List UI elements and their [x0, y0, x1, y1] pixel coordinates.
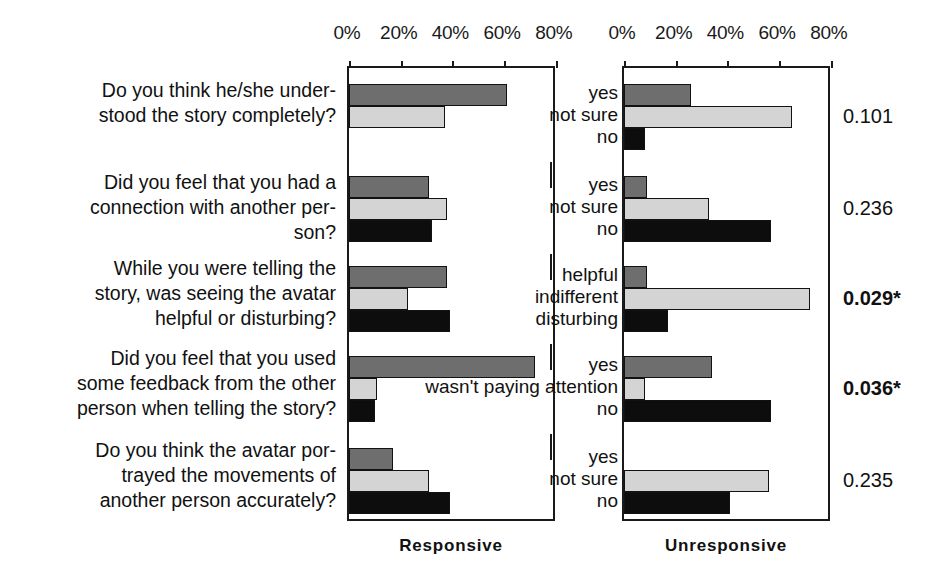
axis-tick-label: 40%: [707, 22, 744, 44]
p-value: 0.036*: [843, 377, 901, 400]
group-divider: [550, 254, 552, 280]
plot-unresponsive: [622, 66, 830, 521]
axis-tick-label: 0%: [609, 22, 636, 44]
p-value: 0.029*: [843, 287, 901, 310]
bar-helpful: [624, 266, 647, 288]
survey-bar-chart-figure: 0%20%40%60%80% 0%20%40%60%80% Do you thi…: [0, 0, 939, 581]
axis-labels-unresponsive: 0%20%40%60%80%: [622, 22, 830, 48]
category-label-column: yesnot surenoyesnot surenohelpfulindiffe…: [396, 66, 618, 521]
bar-not-sure: [624, 470, 769, 492]
bar-disturbing: [624, 310, 668, 332]
question-label: Did you feel that you had aconnection wi…: [6, 170, 336, 245]
category-label: yes: [588, 354, 618, 376]
axis-tick-label: 0%: [334, 22, 361, 44]
question-line: While you were telling the: [6, 256, 336, 281]
question-line: trayed the movements of: [6, 463, 336, 488]
group-divider: [550, 344, 552, 370]
bar-group: [624, 84, 828, 150]
bar-not-sure: [624, 198, 709, 220]
question-line: Did you feel that you used: [6, 346, 336, 371]
axis-tick-label: 40%: [432, 22, 469, 44]
question-line: another person accurately?: [6, 488, 336, 513]
category-label: not sure: [549, 196, 618, 218]
category-label: no: [597, 218, 618, 240]
bar-no: [624, 400, 771, 422]
axis-tick-mark: [349, 61, 351, 68]
p-value: 0.236: [843, 197, 893, 220]
bar-wasn-t-paying-attention: [349, 378, 377, 400]
axis-tick-label: 20%: [655, 22, 692, 44]
category-label: not sure: [549, 468, 618, 490]
question-line: Do you think he/she under-: [6, 78, 336, 103]
p-value-column: 0.1010.2360.029*0.036*0.235: [843, 66, 939, 521]
panel-caption-responsive: Responsive: [347, 536, 555, 556]
axis-tick-mark: [727, 61, 729, 68]
category-label: indifferent: [535, 286, 618, 308]
category-label: yes: [588, 446, 618, 468]
p-value: 0.101: [843, 105, 893, 128]
category-label: no: [597, 126, 618, 148]
category-label: no: [597, 398, 618, 420]
axis-tick-mark: [779, 61, 781, 68]
question-line: story, was seeing the avatar: [6, 281, 336, 306]
question-line: person when telling the story?: [6, 396, 336, 421]
p-value: 0.235: [843, 469, 893, 492]
question-line: stood the story completely?: [6, 103, 336, 128]
question-label-column: Do you think he/she under-stood the stor…: [6, 66, 336, 521]
axis-tick-label: 80%: [535, 22, 572, 44]
group-divider: [550, 162, 552, 188]
bar-yes: [624, 84, 691, 106]
axis-tick-mark: [624, 61, 626, 68]
axis-tick-label: 60%: [759, 22, 796, 44]
bar-no: [624, 128, 645, 150]
question-line: son?: [6, 220, 336, 245]
axis-tick-mark: [831, 61, 833, 68]
bar-group: [624, 356, 828, 422]
question-line: some feedback from the other: [6, 371, 336, 396]
category-label: wasn't paying attention: [425, 376, 618, 398]
axis-tick-label: 60%: [484, 22, 521, 44]
bar-yes: [349, 448, 393, 470]
bar-no: [349, 400, 375, 422]
bar-wasn-t-paying-attention: [624, 378, 645, 400]
category-label: helpful: [562, 264, 618, 286]
group-divider: [550, 434, 552, 460]
question-line: connection with another per-: [6, 195, 336, 220]
question-label: Do you think he/she under-stood the stor…: [6, 78, 336, 128]
panel-caption-unresponsive: Unresponsive: [622, 536, 830, 556]
question-label: Did you feel that you usedsome feedback …: [6, 346, 336, 421]
bar-not-sure: [624, 106, 792, 128]
bar-no: [624, 220, 771, 242]
category-label: yes: [588, 174, 618, 196]
question-label: Do you think the avatar por-trayed the m…: [6, 438, 336, 513]
question-line: Did you feel that you had a: [6, 170, 336, 195]
axis-tick-label: 80%: [810, 22, 847, 44]
question-label: While you were telling thestory, was see…: [6, 256, 336, 331]
category-label: yes: [588, 82, 618, 104]
question-line: helpful or disturbing?: [6, 306, 336, 331]
bar-yes: [624, 176, 647, 198]
axis-tick-label: 20%: [380, 22, 417, 44]
bar-group: [624, 176, 828, 242]
axis-tick-mark: [676, 61, 678, 68]
category-label: disturbing: [536, 308, 618, 330]
category-label: no: [597, 490, 618, 512]
bar-group: [624, 448, 828, 514]
bar-no: [624, 492, 730, 514]
bar-yes: [624, 356, 712, 378]
bar-indifferent: [624, 288, 810, 310]
question-line: Do you think the avatar por-: [6, 438, 336, 463]
bar-group: [624, 266, 828, 332]
category-label: not sure: [549, 104, 618, 126]
axis-labels-responsive: 0%20%40%60%80%: [347, 22, 555, 48]
